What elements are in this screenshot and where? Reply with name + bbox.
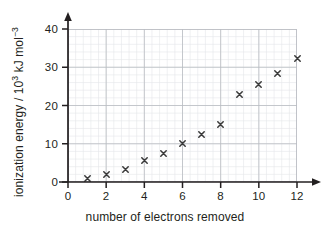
- x-tick-label: 0: [65, 190, 72, 202]
- y-tick-label: 40: [28, 23, 58, 35]
- plot-area: [68, 29, 297, 182]
- y-axis-title-exponent-mol: −3: [10, 27, 20, 37]
- x-tick-label: 12: [290, 190, 303, 202]
- y-axis-title-exponent-kilo: 3: [10, 76, 20, 81]
- data-point: [273, 69, 282, 78]
- x-tick-label: 2: [103, 190, 110, 202]
- data-point: [121, 165, 130, 174]
- y-axis-title-prefix: ionization energy / 10: [12, 81, 26, 197]
- y-axis-title-middle: kJ mol: [12, 37, 26, 76]
- x-tick-label: 4: [141, 190, 148, 202]
- data-point: [197, 130, 206, 139]
- y-tick-label: 30: [28, 61, 58, 73]
- data-point: [83, 174, 92, 183]
- x-tick-label: 10: [252, 190, 265, 202]
- data-point: [293, 54, 302, 63]
- data-point: [254, 80, 263, 89]
- data-point: [235, 90, 244, 99]
- x-axis-title: number of electrons removed: [0, 210, 330, 224]
- data-point: [178, 139, 187, 148]
- y-tick-label: 0: [28, 176, 58, 188]
- grid-lines: [68, 29, 297, 182]
- data-point: [159, 149, 168, 158]
- y-tick-label: 10: [28, 138, 58, 150]
- y-tick-label: 20: [28, 100, 58, 112]
- y-axis-title: ionization energy / 103 kJ mol−3: [12, 27, 26, 197]
- x-tick-label: 8: [217, 190, 224, 202]
- data-point: [216, 120, 225, 129]
- data-point: [102, 170, 111, 179]
- data-point: [140, 156, 149, 165]
- x-tick-label: 6: [179, 190, 186, 202]
- chart-figure: 010203040 024681012 number of electrons …: [0, 0, 330, 237]
